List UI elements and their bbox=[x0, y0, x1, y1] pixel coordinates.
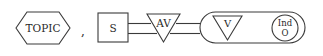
aux-verb-node: AV bbox=[147, 14, 180, 42]
sentence-diagram: TOPIC , S AV V Ind O bbox=[0, 0, 323, 56]
verb-label: V bbox=[223, 18, 232, 29]
topic-node: TOPIC bbox=[16, 12, 70, 44]
comma-separator: , bbox=[81, 24, 85, 38]
subject-label: S bbox=[109, 22, 116, 34]
aux-verb-label: AV bbox=[155, 17, 171, 29]
predicate-group: V Ind O bbox=[200, 12, 305, 43]
indirect-object-label-line2: O bbox=[282, 28, 289, 38]
subject-node: S bbox=[98, 13, 128, 42]
topic-label: TOPIC bbox=[26, 22, 61, 34]
indirect-object-label-line1: Ind bbox=[278, 18, 293, 28]
